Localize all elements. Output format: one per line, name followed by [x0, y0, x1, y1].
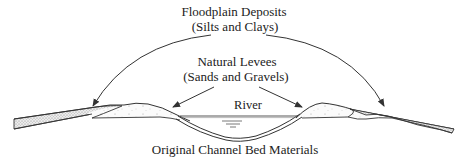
levees-title-label: Natural Levees	[197, 54, 276, 69]
levees-arrow-left	[173, 87, 214, 107]
floodplain-sub-label: (Silts and Clays)	[192, 19, 279, 34]
levees-arrow-right	[259, 87, 302, 107]
channel-bed-label: Original Channel Bed Materials	[152, 142, 318, 157]
right-floodplain-base-line	[348, 117, 452, 133]
floodplain-title-label: Floodplain Deposits	[181, 4, 286, 19]
floodplain-cross-section-diagram: Floodplain Deposits (Silts and Clays) Na…	[0, 0, 468, 159]
river-label: River	[234, 98, 263, 112]
levees-sub-label: (Sands and Gravels)	[183, 69, 288, 84]
